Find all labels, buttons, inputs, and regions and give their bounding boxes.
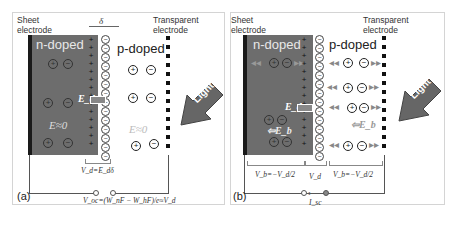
transparent-electrode-label: Transparent electrode <box>363 15 409 35</box>
transparent-electrode <box>166 36 170 153</box>
vb-right-brace <box>329 161 383 166</box>
electron-icon: − <box>63 59 73 69</box>
circuit-wire-bottom <box>244 193 384 194</box>
carrier-drift-arrows: ◂◂ <box>329 139 339 150</box>
electron-icon: − <box>282 58 292 68</box>
hole-icon: + <box>131 141 141 151</box>
electron-icon: − <box>149 139 159 149</box>
hole-icon: + <box>128 93 138 103</box>
electron-icon: − <box>357 83 367 93</box>
electron-icon: − <box>357 141 367 151</box>
p-field-label: E≈0 <box>129 123 147 135</box>
panel-a: Sheet electrode Transparent electrode δ … <box>12 12 225 205</box>
depletion-width-label: δ <box>99 16 103 26</box>
hole-icon: + <box>43 98 53 108</box>
circuit-wire-left <box>244 155 245 193</box>
circuit-wire-bottom-left <box>29 193 95 194</box>
carrier-drift-arrows: ▸▸ <box>371 57 381 68</box>
transparent-electrode <box>382 36 386 153</box>
n-field-label: E≈0 <box>49 119 67 131</box>
hole-icon: + <box>343 58 353 68</box>
positive-space-charge: ++++++++++++++ <box>300 36 308 148</box>
carrier-drift-arrows: ◂◂ <box>329 101 339 112</box>
hole-icon: + <box>343 83 353 93</box>
electron-icon: − <box>282 137 292 147</box>
bulk-field-n-label: ⇦E_b <box>267 125 292 136</box>
positive-space-charge: ++++++++++++++ <box>87 36 95 148</box>
vd-brace <box>305 161 327 166</box>
hole-icon: + <box>347 103 357 113</box>
electron-icon: − <box>359 58 369 68</box>
carrier-drift-arrows: ◂◂ <box>327 81 337 92</box>
electron-icon: − <box>146 65 156 75</box>
carrier-drift-arrows: ▸▸ <box>369 139 379 150</box>
isc-label: I_sc <box>309 198 322 207</box>
panel-caption: (a) <box>17 190 30 202</box>
circuit-wire-left <box>29 155 30 193</box>
carrier-drift-arrows: ◂◂ <box>251 57 261 68</box>
n-doped-label: n-doped <box>253 37 301 52</box>
voc-equation: V_oc=(W_nF − W_hF)/e≈V_d <box>83 196 176 205</box>
sheet-electrode-label: Sheet electrode <box>17 15 52 35</box>
terminal-icon <box>323 190 329 196</box>
vd-equation: V_d=E_dδ <box>81 166 114 175</box>
depletion-field-arrow <box>297 104 313 112</box>
carrier-drift-arrows: ▸▸ <box>371 101 381 112</box>
hole-icon: + <box>128 65 138 75</box>
vd-brace <box>85 159 111 164</box>
p-doped-label: p-doped <box>329 37 377 52</box>
circuit-wire-right <box>168 155 169 194</box>
hole-icon: + <box>343 141 353 151</box>
electron-icon: − <box>146 93 156 103</box>
bulk-field-p-label: ⇦E_b <box>351 119 376 130</box>
electron-icon: − <box>63 98 73 108</box>
sheet-electrode-label: Sheet electrode <box>231 15 266 35</box>
vb-left-brace <box>247 161 305 166</box>
panel-caption: (b) <box>233 190 246 202</box>
depletion-field-arrow <box>90 96 106 104</box>
electron-icon: − <box>359 103 369 113</box>
p-doped-label: p-doped <box>117 41 165 56</box>
vb-left-label: V_b=−V_d/2 <box>255 170 295 179</box>
carrier-drift-arrows: ▸▸ <box>369 81 379 92</box>
hole-icon: + <box>269 58 279 68</box>
circuit-wire-bottom-right <box>113 193 168 194</box>
n-doped-label: n-doped <box>36 37 84 52</box>
hole-icon: + <box>264 115 274 125</box>
vd-label: V_d <box>309 172 321 181</box>
electron-icon: − <box>277 115 287 125</box>
circuit-wire-right <box>384 155 385 194</box>
panel-b: Sheet electrode Transparent electrode n-… <box>230 12 445 205</box>
transparent-electrode-label: Transparent electrode <box>153 15 199 35</box>
carrier-drift-arrows: ◂◂ <box>329 57 339 68</box>
hole-icon: + <box>48 59 58 69</box>
hole-icon: + <box>43 138 53 148</box>
current-arrow-icon: ◂ <box>307 189 310 196</box>
negative-space-charge: −−−−−−−−−−−−−− <box>315 35 324 161</box>
hole-icon: + <box>269 137 279 147</box>
depletion-width-arrow <box>89 26 119 27</box>
vb-right-label: V_b=−V_d/2 <box>333 170 373 179</box>
electron-icon: − <box>63 138 73 148</box>
